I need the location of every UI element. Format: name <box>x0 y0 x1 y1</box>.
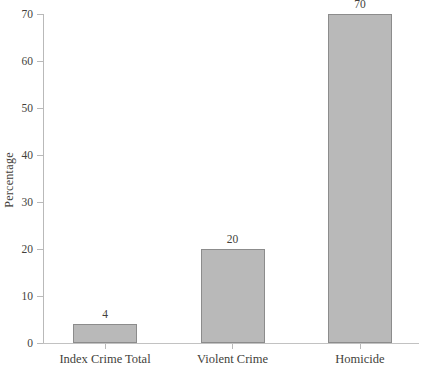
y-axis-tick <box>37 61 43 62</box>
bar-chart-figure: Percentage 0102030405060704Index Crime T… <box>0 0 431 369</box>
y-axis-title: Percentage <box>2 110 18 250</box>
y-axis-tick <box>37 14 43 15</box>
y-axis-tick-label: 50 <box>0 101 33 115</box>
y-axis-tick-label: 30 <box>0 195 33 209</box>
y-axis-tick <box>37 202 43 203</box>
bar <box>201 249 265 343</box>
bar <box>328 14 392 343</box>
y-axis-tick <box>37 249 43 250</box>
x-axis-line <box>43 343 419 344</box>
category-label: Homicide <box>290 352 430 367</box>
y-axis-tick <box>37 343 43 344</box>
x-axis-tick <box>232 344 233 349</box>
bar-value-label: 70 <box>328 0 392 11</box>
y-axis-line <box>43 14 44 344</box>
category-label: Index Crime Total <box>35 352 175 367</box>
y-axis-tick-label: 60 <box>0 54 33 68</box>
y-axis-tick <box>37 296 43 297</box>
x-axis-tick <box>360 344 361 349</box>
bar-value-label: 4 <box>73 307 137 321</box>
y-axis-tick-label: 20 <box>0 242 33 256</box>
category-label: Violent Crime <box>163 352 303 367</box>
y-axis-tick <box>37 108 43 109</box>
y-axis-tick-label: 10 <box>0 289 33 303</box>
y-axis-tick <box>37 155 43 156</box>
x-axis-tick <box>105 344 106 349</box>
y-axis-tick-label: 40 <box>0 148 33 162</box>
y-axis-tick-label: 70 <box>0 7 33 21</box>
bar <box>73 324 137 343</box>
bar-value-label: 20 <box>201 232 265 246</box>
y-axis-tick-label: 0 <box>0 336 33 350</box>
